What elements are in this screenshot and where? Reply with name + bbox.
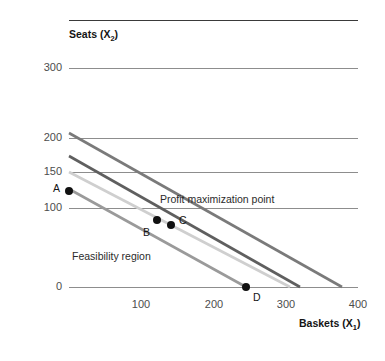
chart-lines-group [0, 0, 385, 361]
x-axis-title: Baskets (X1) [299, 317, 360, 332]
annotation-feasibility-region: Feasibility region [72, 250, 151, 262]
chart-container: Seats (X2) 300 200 150 100 0 Profit maxi… [0, 0, 385, 361]
x-axis-title-paren: ) [357, 317, 361, 329]
series-line-iso-profit-line [69, 172, 290, 287]
data-point-c [167, 221, 175, 229]
xtick-label-400: 400 [338, 298, 378, 310]
x-axis-title-text: Baskets (X [299, 317, 353, 329]
xtick-label-300: 300 [266, 298, 306, 310]
data-point-a [65, 187, 73, 195]
data-point-label-d: D [253, 291, 261, 303]
data-point-d [242, 283, 250, 291]
xtick-label-100: 100 [121, 298, 161, 310]
annotation-profit-maximization-point: Profit maximization point [160, 193, 274, 205]
data-point-label-a: A [53, 182, 60, 194]
data-point-label-b: B [143, 226, 150, 238]
xtick-label-200: 200 [194, 298, 234, 310]
data-point-b [153, 216, 161, 224]
data-point-label-c: C [179, 214, 187, 226]
